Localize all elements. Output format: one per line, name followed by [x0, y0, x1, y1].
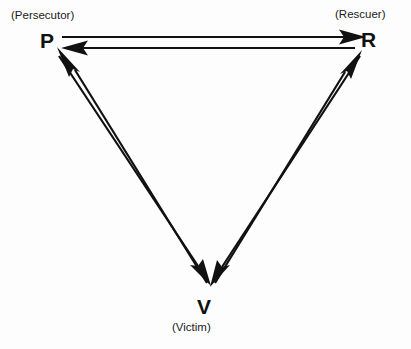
vertex-letter-victim: V	[197, 296, 211, 317]
edge-r-to-p	[61, 41, 355, 56]
vertex-letter-persecutor: P	[40, 30, 54, 51]
role-label-rescuer: (Rescuer)	[335, 9, 385, 21]
vertex-letter-rescuer: R	[361, 29, 376, 50]
drama-triangle-diagram: P R V (Persecutor) (Rescuer) (Victim)	[0, 0, 411, 349]
edge-p-to-r	[62, 30, 366, 45]
edge-v-to-p-line	[75, 70, 207, 283]
edge-r-to-v	[210, 56, 360, 287]
edge-v-to-r-line	[215, 72, 345, 283]
role-label-victim: (Victim)	[172, 322, 211, 334]
role-label-persecutor: (Persecutor)	[11, 10, 74, 22]
